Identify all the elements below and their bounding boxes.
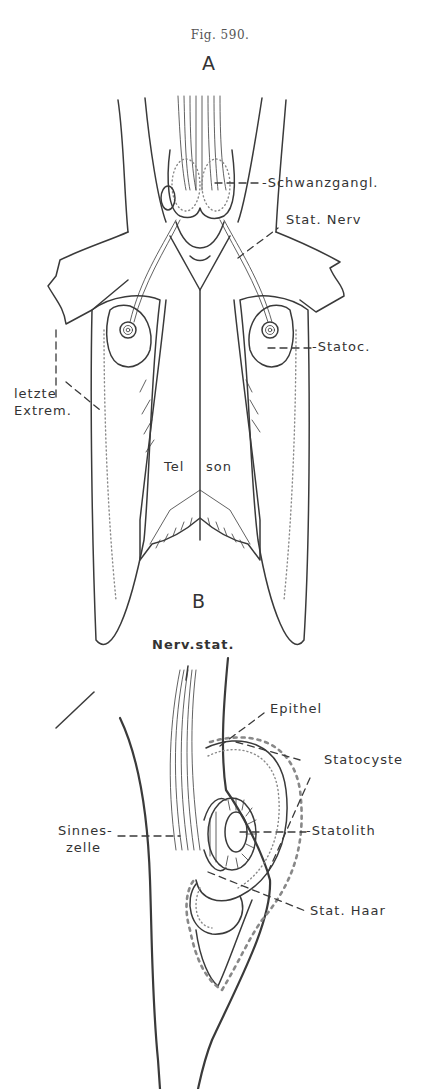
- label-statocyst: -Statoc.: [312, 340, 370, 355]
- panel-label-b: B: [192, 590, 205, 612]
- label-statocyste: Statocyste: [324, 753, 403, 768]
- panel-b-drawing: [56, 658, 310, 1089]
- label-statolith: -Statolith: [306, 824, 376, 839]
- label-zelle: zelle: [66, 841, 101, 856]
- label-stat-nerv: Stat. Nerv: [286, 213, 361, 228]
- label-stat-haar: Stat. Haar: [310, 904, 386, 919]
- label-nerv-stat: Nerv.stat.: [152, 638, 234, 653]
- label-sinnes: Sinnes-: [58, 824, 113, 839]
- label-telson-tel: Tel: [164, 460, 184, 475]
- label-schwanzganglion: -Schwanzgangl.: [262, 176, 378, 191]
- label-epithel: Epithel: [270, 702, 322, 717]
- label-telson-son: son: [206, 460, 232, 475]
- label-letzte: letzte: [14, 387, 57, 402]
- telson-statocyst-illustration: [0, 0, 440, 1089]
- label-extrem: Extrem.: [14, 404, 72, 419]
